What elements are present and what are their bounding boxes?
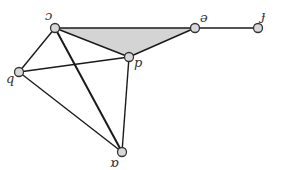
node-b bbox=[15, 68, 24, 77]
shaded-triangle-region bbox=[55, 28, 195, 57]
node-d bbox=[125, 53, 134, 62]
node-f bbox=[254, 24, 263, 33]
graph-diagram: ɔəɟpqɒ bbox=[0, 0, 283, 170]
node-label-b: q bbox=[6, 71, 14, 86]
node-label-a: ɒ bbox=[110, 155, 119, 170]
node-label-c: ɔ bbox=[45, 8, 52, 23]
node-e bbox=[191, 24, 200, 33]
node-a bbox=[118, 148, 127, 157]
edge-c-b bbox=[19, 28, 55, 72]
node-label-e: ə bbox=[200, 10, 208, 25]
node-label-f: ɟ bbox=[258, 8, 266, 23]
edge-d-a bbox=[122, 57, 129, 152]
edge-b-a bbox=[19, 72, 122, 152]
node-c bbox=[51, 24, 60, 33]
edge-b-d bbox=[19, 57, 129, 72]
node-label-d: p bbox=[134, 55, 143, 70]
